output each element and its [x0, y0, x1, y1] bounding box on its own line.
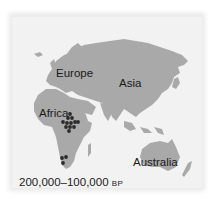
- site-marker: [76, 120, 80, 124]
- site-marker: [61, 161, 65, 165]
- new-zealand-landmass: [182, 161, 192, 177]
- site-marker: [60, 156, 64, 160]
- site-marker: [70, 116, 74, 120]
- site-marker: [65, 121, 69, 125]
- map-frame: Europe Asia Africa Australia 200,000–100…: [12, 17, 202, 188]
- site-marker: [67, 129, 71, 133]
- time-period-caption: 200,000–100,000 BP: [19, 176, 123, 188]
- southeast-asia-islands: [124, 121, 164, 135]
- site-marker: [68, 125, 72, 129]
- label-asia: Asia: [119, 77, 141, 89]
- site-marker: [68, 112, 72, 116]
- site-marker: [61, 120, 65, 124]
- caption-range: 200,000–100,000: [19, 176, 109, 188]
- site-marker: [64, 125, 68, 129]
- label-australia: Australia: [133, 156, 178, 168]
- caption-unit: BP: [112, 179, 123, 188]
- iceland-landmass: [34, 52, 43, 57]
- site-marker: [64, 155, 68, 159]
- madagascar-landmass: [88, 143, 91, 157]
- label-europe: Europe: [56, 67, 93, 79]
- label-africa: Africa: [39, 107, 68, 119]
- site-marker: [72, 125, 76, 129]
- site-marker: [69, 121, 73, 125]
